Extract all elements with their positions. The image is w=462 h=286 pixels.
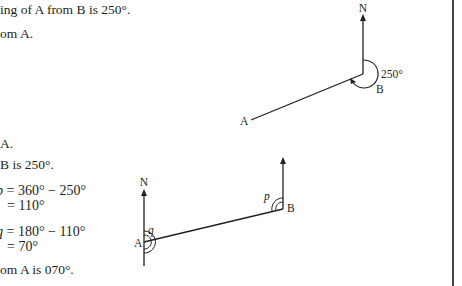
- angle-arc-250: [352, 60, 378, 88]
- point-label-a-bottom: A: [134, 237, 143, 249]
- north-arrow-a-icon: [141, 189, 147, 196]
- angle-label-q: q: [148, 224, 154, 237]
- page-border-right: [452, 0, 454, 286]
- north-label: N: [359, 2, 368, 14]
- point-label-b: B: [376, 83, 384, 95]
- north-arrow-b-icon: [280, 157, 286, 164]
- bottom-diagram: N q A p B: [134, 157, 295, 266]
- top-diagram: N 250° B A: [240, 2, 403, 127]
- angle-label-p: p: [263, 190, 270, 203]
- north-label-a: N: [140, 176, 149, 188]
- arc-arrow-icon: [350, 78, 356, 84]
- angle-label-250: 250°: [381, 68, 403, 80]
- point-label-b-bottom: B: [287, 202, 295, 214]
- bearing-diagrams: N 250° B A N q A p B: [0, 0, 462, 286]
- point-label-a: A: [240, 115, 249, 127]
- north-arrow-icon: [360, 14, 366, 21]
- line-ab: [251, 74, 363, 120]
- line-ab-bottom: [144, 209, 283, 242]
